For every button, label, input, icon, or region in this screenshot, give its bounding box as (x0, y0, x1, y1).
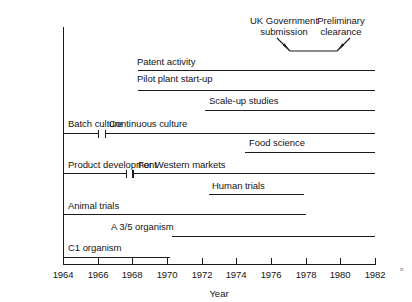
timeline-bar[interactable] (63, 173, 127, 174)
corner-mark: ¤ (400, 266, 403, 272)
x-axis-tick (63, 258, 64, 265)
timeline-bar[interactable] (172, 236, 375, 237)
timeline-bar[interactable] (132, 173, 375, 174)
timeline-bar-label: C1 organism (68, 242, 121, 253)
x-axis-tick (306, 258, 307, 265)
timeline-bar[interactable] (63, 133, 99, 134)
x-axis-tick-label: 1972 (192, 269, 213, 280)
timeline-bar-label: Food science (249, 137, 305, 148)
timeline-bar[interactable] (63, 214, 306, 215)
timeline-bar-label: A 3/5 organism (111, 221, 174, 232)
timeline-bar-label: Continuous culture (109, 118, 187, 129)
annotation-bracket-arrows (0, 0, 412, 70)
timeline-bar-label: Animal trials (68, 200, 119, 211)
x-axis-tick (340, 258, 341, 265)
timeline-bar[interactable] (138, 70, 375, 71)
timeline-bar[interactable] (209, 194, 304, 195)
timeline-bar-label: Human trials (212, 180, 265, 191)
timeline-bar[interactable] (245, 152, 375, 153)
x-axis-tick (236, 258, 237, 265)
timeline-bar-label: Scale-up studies (209, 95, 278, 106)
x-axis-tick-label: 1968 (122, 269, 143, 280)
x-axis-tick-label: 1966 (88, 269, 109, 280)
timeline-bar[interactable] (105, 133, 375, 134)
x-axis-tick-label: 1974 (226, 269, 247, 280)
x-axis-tick (167, 258, 168, 265)
x-axis-tick-label: 1976 (261, 269, 282, 280)
x-axis-tick (202, 258, 203, 265)
timeline-bar-label: Pilot plant start-up (137, 73, 213, 84)
x-axis-tick-label: 1964 (53, 269, 74, 280)
x-axis-tick-label: 1978 (296, 269, 317, 280)
x-axis-tick (98, 258, 99, 265)
timeline-bar[interactable] (205, 110, 375, 111)
timeline-figure: 1964196619681970197219741976197819801982… (0, 0, 412, 302)
timeline-bar-label: For Western markets (138, 159, 226, 170)
x-axis-tick (375, 258, 376, 265)
x-axis-tick-label: 1970 (157, 269, 178, 280)
x-axis-tick (132, 258, 133, 265)
x-axis-tick (271, 258, 272, 265)
timeline-bar[interactable] (138, 90, 375, 91)
x-axis-tick-label: 1980 (330, 269, 351, 280)
x-axis-title: Year (209, 288, 228, 299)
x-axis-line (63, 264, 376, 265)
x-axis-tick-label: 1982 (365, 269, 386, 280)
timeline-bar[interactable] (63, 257, 170, 258)
